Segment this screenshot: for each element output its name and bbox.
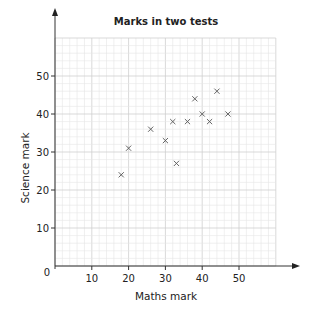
y-tick-label: 50 — [36, 71, 49, 82]
y-axis-arrow-icon — [52, 8, 58, 16]
y-tick-label: 10 — [36, 223, 49, 234]
y-axis-label: Science mark — [19, 132, 31, 204]
tick-labels: 10203040501020304050 — [36, 71, 245, 285]
origin-label: 0 — [44, 267, 50, 278]
grid — [55, 38, 276, 266]
x-tick-label: 50 — [233, 273, 246, 284]
scatter-chart: 10203040501020304050 Marks in two tests … — [0, 0, 314, 316]
x-tick-label: 10 — [85, 273, 98, 284]
x-tick-label: 20 — [122, 273, 135, 284]
y-tick-label: 20 — [36, 185, 49, 196]
x-axis-label: Maths mark — [135, 290, 198, 302]
data-points — [119, 89, 231, 178]
y-tick-label: 30 — [36, 147, 49, 158]
x-tick-label: 30 — [159, 273, 172, 284]
x-tick-label: 40 — [196, 273, 209, 284]
y-tick-label: 40 — [36, 109, 49, 120]
data-point-x-marker-icon — [174, 161, 179, 166]
chart-title: Marks in two tests — [114, 16, 218, 27]
x-axis-arrow-icon — [292, 263, 300, 269]
axes — [52, 8, 300, 269]
